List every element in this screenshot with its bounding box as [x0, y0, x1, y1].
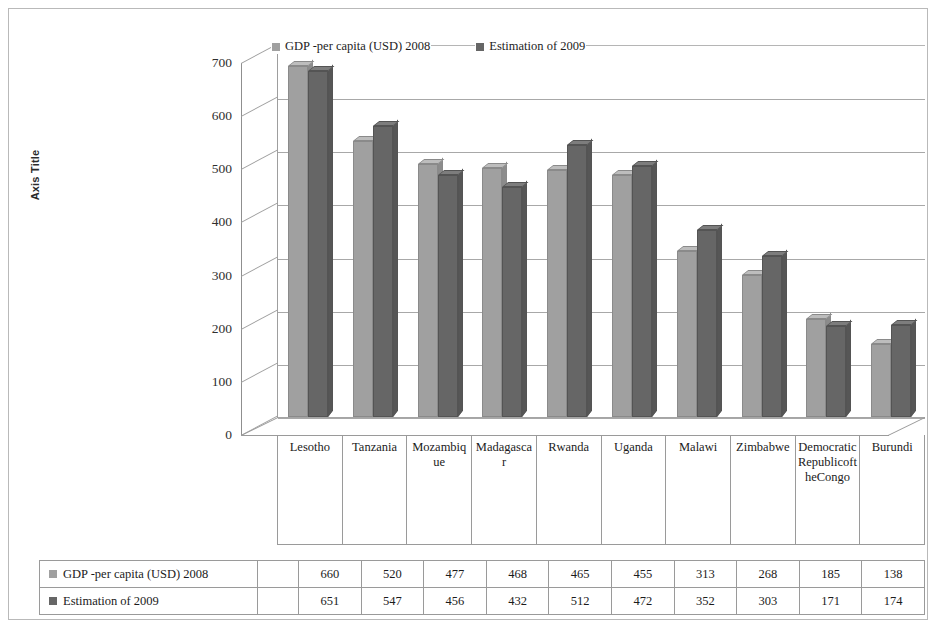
- value-axis-tick-label: 600: [212, 108, 232, 124]
- table-cell-value: 465: [549, 561, 612, 588]
- bar-front-face: [502, 187, 522, 417]
- bar[interactable]: [891, 325, 911, 417]
- category-label: Madagascar: [472, 435, 537, 544]
- bar-front-face: [612, 175, 632, 417]
- bar-front-face: [288, 66, 308, 417]
- bar-series-layer: [277, 45, 925, 417]
- category-label: DemocraticRepublicoftheCongo: [796, 435, 861, 544]
- table-cell-value: 171: [799, 588, 862, 615]
- table-row: GDP -per capita (USD) 200866052047746846…: [40, 561, 925, 588]
- table-cell-value: 352: [674, 588, 737, 615]
- category-label: Zimbabwe: [731, 435, 796, 544]
- bar-side-face: [328, 65, 333, 417]
- category-label: Rwanda: [537, 435, 602, 544]
- bar-side-face: [846, 320, 851, 417]
- table-cell-value: 472: [611, 588, 674, 615]
- axis-depth-connector: [241, 183, 278, 224]
- bar[interactable]: [612, 175, 632, 417]
- legend-item[interactable]: Estimation of 2009: [475, 39, 586, 54]
- bar[interactable]: [826, 326, 846, 417]
- category-label: Malawi: [666, 435, 731, 544]
- table-cell-value: 303: [737, 588, 800, 615]
- bar[interactable]: [567, 145, 587, 417]
- bar[interactable]: [677, 251, 697, 417]
- bar-side-face: [522, 181, 527, 417]
- table-cell-value: 547: [361, 588, 424, 615]
- bar[interactable]: [547, 170, 567, 417]
- axis-depth-connector: [241, 289, 278, 330]
- floor-left-edge: [241, 399, 278, 436]
- bar[interactable]: [502, 187, 522, 417]
- table-cell-value: 138: [862, 561, 925, 588]
- chart-frame: Axis Title GDP -per capita (USD) 2008Est…: [8, 8, 928, 620]
- table-cell-value: 455: [611, 561, 674, 588]
- bar[interactable]: [482, 168, 502, 417]
- value-axis-tick-label: 500: [212, 161, 232, 177]
- table-row-key: GDP -per capita (USD) 2008: [40, 561, 258, 588]
- chart-screenshot: Axis Title GDP -per capita (USD) 2008Est…: [0, 0, 938, 630]
- plot-floor: [241, 417, 925, 435]
- category-label: Lesotho: [278, 435, 343, 544]
- bar-front-face: [418, 164, 438, 417]
- series-name: GDP -per capita (USD) 2008: [63, 567, 208, 582]
- bar-side-face: [717, 224, 722, 417]
- table-cell-value: 185: [799, 561, 862, 588]
- bar[interactable]: [373, 126, 393, 417]
- table-cell-value: 512: [549, 588, 612, 615]
- bar-front-face: [762, 256, 782, 417]
- table-row: Estimation of 20096515474564325124723523…: [40, 588, 925, 615]
- bar-front-face: [677, 251, 697, 417]
- bar-front-face: [826, 326, 846, 417]
- value-axis-tick-label: 0: [225, 427, 232, 443]
- legend-swatch-icon: [476, 43, 484, 51]
- value-axis-tick-label: 700: [212, 55, 232, 71]
- bar[interactable]: [697, 230, 717, 417]
- bar[interactable]: [288, 66, 308, 417]
- bar[interactable]: [806, 319, 826, 417]
- table-cell-value: 660: [299, 561, 362, 588]
- bar[interactable]: [762, 256, 782, 417]
- bar-side-face: [587, 139, 592, 417]
- value-axis-tick-label: 100: [212, 374, 232, 390]
- bar[interactable]: [308, 71, 328, 417]
- category-label: Mozambique: [407, 435, 472, 544]
- category-axis-labels: LesothoTanzaniaMozambiqueMadagascarRwand…: [277, 435, 925, 545]
- legend-item[interactable]: GDP -per capita (USD) 2008: [271, 39, 431, 54]
- series-swatch-icon: [49, 597, 57, 605]
- bar-front-face: [353, 141, 373, 417]
- table-cell-value: 268: [737, 561, 800, 588]
- axis-depth-connector: [241, 236, 278, 277]
- bar-group: [860, 45, 936, 417]
- bar-front-face: [871, 344, 891, 417]
- bar-front-face: [697, 230, 717, 417]
- bar[interactable]: [418, 164, 438, 417]
- bar[interactable]: [632, 166, 652, 417]
- category-label: Burundi: [860, 435, 924, 544]
- legend-label: Estimation of 2009: [489, 39, 585, 54]
- table-spacer-cell: [258, 561, 299, 588]
- bar-side-face: [652, 160, 657, 417]
- table-cell-value: 174: [862, 588, 925, 615]
- table-cell-value: 520: [361, 561, 424, 588]
- plot-area: 7006005004003002001000: [241, 45, 925, 435]
- table-cell-value: 477: [424, 561, 487, 588]
- axis-depth-connector: [241, 342, 278, 383]
- value-axis-tick-label: 300: [212, 268, 232, 284]
- bar-front-face: [632, 166, 652, 417]
- bar-front-face: [567, 145, 587, 417]
- legend-label: GDP -per capita (USD) 2008: [285, 39, 430, 54]
- value-axis-line: [241, 63, 242, 435]
- table-spacer-cell: [258, 588, 299, 615]
- bar[interactable]: [438, 175, 458, 417]
- table-cell-value: 313: [674, 561, 737, 588]
- value-axis-tick-label: 400: [212, 214, 232, 230]
- bar-side-face: [393, 120, 398, 417]
- bar[interactable]: [353, 141, 373, 417]
- bar-front-face: [308, 71, 328, 417]
- table-cell-value: 456: [424, 588, 487, 615]
- bar[interactable]: [742, 275, 762, 417]
- vertical-axis-title: Axis Title: [29, 115, 41, 235]
- table-cell-value: 651: [299, 588, 362, 615]
- bar[interactable]: [871, 344, 891, 417]
- chart-data-table: GDP -per capita (USD) 200866052047746846…: [39, 560, 925, 615]
